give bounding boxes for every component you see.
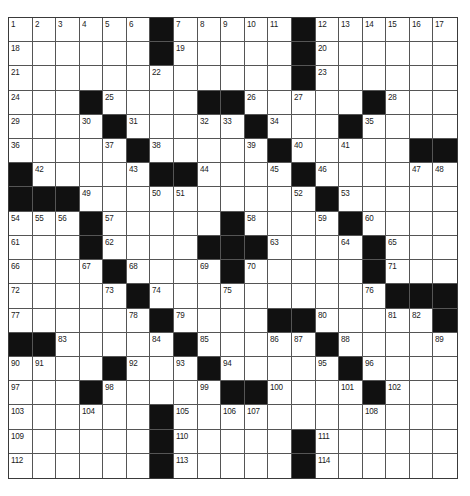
grid-cell[interactable]: 80 [316, 309, 340, 333]
grid-cell[interactable]: 8 [198, 18, 222, 42]
grid-cell[interactable] [363, 333, 387, 357]
grid-cell[interactable] [56, 236, 80, 260]
grid-cell[interactable] [56, 454, 80, 478]
grid-cell[interactable] [433, 381, 457, 405]
grid-cell[interactable] [127, 381, 151, 405]
grid-cell[interactable]: 28 [386, 91, 410, 115]
grid-cell[interactable] [433, 405, 457, 429]
grid-cell[interactable]: 6 [127, 18, 151, 42]
grid-cell[interactable]: 15 [386, 18, 410, 42]
grid-cell[interactable] [150, 381, 174, 405]
grid-cell[interactable] [127, 187, 151, 211]
grid-cell[interactable] [292, 284, 316, 308]
grid-cell[interactable]: 73 [103, 284, 127, 308]
grid-cell[interactable]: 66 [9, 260, 33, 284]
grid-cell[interactable]: 86 [268, 333, 292, 357]
grid-cell[interactable] [410, 260, 434, 284]
grid-cell[interactable] [221, 430, 245, 454]
grid-cell[interactable] [56, 139, 80, 163]
grid-cell[interactable] [33, 405, 57, 429]
grid-cell[interactable] [127, 454, 151, 478]
grid-cell[interactable] [292, 357, 316, 381]
grid-cell[interactable] [292, 260, 316, 284]
grid-cell[interactable] [174, 91, 198, 115]
grid-cell[interactable] [103, 430, 127, 454]
grid-cell[interactable]: 106 [221, 405, 245, 429]
grid-cell[interactable]: 55 [33, 212, 57, 236]
grid-cell[interactable]: 26 [245, 91, 269, 115]
grid-cell[interactable]: 65 [386, 236, 410, 260]
grid-cell[interactable] [150, 357, 174, 381]
grid-cell[interactable]: 2 [33, 18, 57, 42]
grid-cell[interactable] [221, 42, 245, 66]
grid-cell[interactable] [174, 260, 198, 284]
grid-cell[interactable] [339, 66, 363, 90]
grid-cell[interactable]: 72 [9, 284, 33, 308]
grid-cell[interactable]: 42 [33, 163, 57, 187]
grid-cell[interactable] [410, 405, 434, 429]
grid-cell[interactable] [292, 236, 316, 260]
grid-cell[interactable] [363, 42, 387, 66]
grid-cell[interactable]: 93 [174, 357, 198, 381]
grid-cell[interactable] [433, 430, 457, 454]
grid-cell[interactable] [103, 187, 127, 211]
grid-cell[interactable]: 112 [9, 454, 33, 478]
grid-cell[interactable]: 103 [9, 405, 33, 429]
grid-cell[interactable]: 18 [9, 42, 33, 66]
grid-cell[interactable]: 46 [316, 163, 340, 187]
grid-cell[interactable] [339, 405, 363, 429]
grid-cell[interactable]: 56 [56, 212, 80, 236]
grid-cell[interactable]: 36 [9, 139, 33, 163]
grid-cell[interactable]: 16 [410, 18, 434, 42]
grid-cell[interactable] [174, 284, 198, 308]
grid-cell[interactable]: 3 [56, 18, 80, 42]
grid-cell[interactable] [268, 430, 292, 454]
grid-cell[interactable] [316, 236, 340, 260]
grid-cell[interactable]: 70 [245, 260, 269, 284]
grid-cell[interactable]: 10 [245, 18, 269, 42]
grid-cell[interactable]: 100 [268, 381, 292, 405]
grid-cell[interactable] [198, 212, 222, 236]
grid-cell[interactable] [127, 42, 151, 66]
grid-cell[interactable] [386, 139, 410, 163]
grid-cell[interactable] [56, 163, 80, 187]
grid-cell[interactable]: 99 [198, 381, 222, 405]
grid-cell[interactable] [80, 333, 104, 357]
grid-cell[interactable] [56, 66, 80, 90]
grid-cell[interactable] [339, 430, 363, 454]
grid-cell[interactable] [292, 381, 316, 405]
grid-cell[interactable] [174, 236, 198, 260]
grid-cell[interactable] [410, 187, 434, 211]
grid-cell[interactable] [174, 212, 198, 236]
grid-cell[interactable]: 4 [80, 18, 104, 42]
grid-cell[interactable]: 7 [174, 18, 198, 42]
grid-cell[interactable]: 9 [221, 18, 245, 42]
grid-cell[interactable]: 33 [221, 115, 245, 139]
grid-cell[interactable] [245, 454, 269, 478]
grid-cell[interactable]: 29 [9, 115, 33, 139]
grid-cell[interactable] [363, 187, 387, 211]
grid-cell[interactable]: 102 [386, 381, 410, 405]
grid-cell[interactable]: 74 [150, 284, 174, 308]
grid-cell[interactable]: 47 [410, 163, 434, 187]
grid-cell[interactable]: 62 [103, 236, 127, 260]
grid-cell[interactable]: 23 [316, 66, 340, 90]
grid-cell[interactable] [245, 187, 269, 211]
grid-cell[interactable]: 51 [174, 187, 198, 211]
grid-cell[interactable]: 107 [245, 405, 269, 429]
grid-cell[interactable] [339, 42, 363, 66]
grid-cell[interactable] [221, 66, 245, 90]
grid-cell[interactable]: 71 [386, 260, 410, 284]
grid-cell[interactable] [127, 212, 151, 236]
grid-cell[interactable] [339, 454, 363, 478]
grid-cell[interactable] [33, 309, 57, 333]
grid-cell[interactable]: 90 [9, 357, 33, 381]
grid-cell[interactable] [56, 381, 80, 405]
grid-cell[interactable]: 105 [174, 405, 198, 429]
grid-cell[interactable]: 54 [9, 212, 33, 236]
grid-cell[interactable] [80, 309, 104, 333]
grid-cell[interactable]: 27 [292, 91, 316, 115]
grid-cell[interactable] [221, 309, 245, 333]
grid-cell[interactable]: 49 [80, 187, 104, 211]
grid-cell[interactable]: 75 [221, 284, 245, 308]
